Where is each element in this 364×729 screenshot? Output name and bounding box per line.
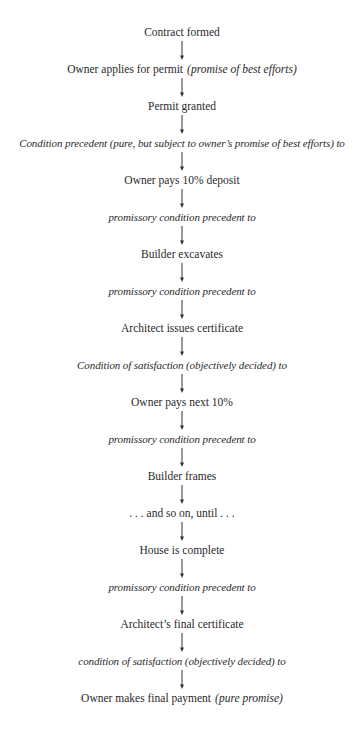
down-arrow-icon [177, 225, 187, 246]
relation-promissory-condition: promissory condition precedent to [108, 283, 255, 299]
node-label: Architect issues certificate [121, 322, 243, 334]
node-label: Architect’s final certificate [120, 618, 243, 630]
down-arrow-icon [177, 336, 187, 357]
relation-promissory-condition: promissory condition precedent to [108, 209, 255, 225]
relation-condition-of-satisfaction: Condition of satisfaction (objectively d… [77, 357, 287, 373]
node-owner-final-payment: Owner makes final payment(pure promise) [81, 690, 283, 706]
relation-label: promissory condition precedent to [108, 211, 255, 223]
relation-promissory-condition: promissory condition precedent to [108, 579, 255, 595]
flow-diagram: Contract formed Owner applies for permit… [0, 24, 364, 706]
node-note: (pure promise) [215, 692, 283, 704]
relation-label: Condition of satisfaction (objectively d… [77, 359, 287, 371]
node-owner-pays-next: Owner pays next 10% [131, 394, 233, 410]
down-arrow-icon [177, 151, 187, 172]
down-arrow-icon [177, 373, 187, 394]
relation-condition-of-satisfaction: condition of satisfaction (objectively d… [78, 653, 285, 669]
node-architect-issues-certificate: Architect issues certificate [121, 320, 243, 336]
relation-condition-precedent: Condition precedent (pure, but subject t… [19, 135, 345, 151]
node-label: Contract formed [144, 26, 220, 38]
down-arrow-icon [177, 77, 187, 98]
node-label: Owner applies for permit [67, 63, 183, 75]
relation-promissory-condition: promissory condition precedent to [108, 431, 255, 447]
relation-label: condition of satisfaction (objectively d… [78, 655, 285, 667]
node-label: Owner makes final payment [81, 692, 211, 704]
down-arrow-icon [177, 447, 187, 468]
node-label: Permit granted [148, 100, 216, 112]
node-house-complete: House is complete [140, 542, 225, 558]
down-arrow-icon [177, 188, 187, 209]
down-arrow-icon [177, 595, 187, 616]
node-label: Builder excavates [141, 248, 223, 260]
down-arrow-icon [177, 669, 187, 690]
node-builder-excavates: Builder excavates [141, 246, 223, 262]
node-builder-frames: Builder frames [148, 468, 217, 484]
down-arrow-icon [177, 299, 187, 320]
relation-label: promissory condition precedent to [108, 581, 255, 593]
relation-label: Condition precedent (pure, but subject t… [19, 137, 345, 149]
down-arrow-icon [177, 40, 187, 61]
node-label: Owner pays next 10% [131, 396, 233, 408]
node-architect-final-certificate: Architect’s final certificate [120, 616, 243, 632]
node-note: (promise of best efforts) [187, 63, 297, 75]
node-and-so-on: . . . and so on, until . . . [129, 505, 234, 521]
relation-label: promissory condition precedent to [108, 433, 255, 445]
down-arrow-icon [177, 484, 187, 505]
down-arrow-icon [177, 521, 187, 542]
node-label: Owner pays 10% deposit [124, 174, 239, 186]
node-label: . . . and so on, until . . . [129, 507, 234, 519]
node-contract-formed: Contract formed [144, 24, 220, 40]
down-arrow-icon [177, 114, 187, 135]
down-arrow-icon [177, 410, 187, 431]
down-arrow-icon [177, 558, 187, 579]
down-arrow-icon [177, 262, 187, 283]
node-permit-granted: Permit granted [148, 98, 216, 114]
node-owner-pays-deposit: Owner pays 10% deposit [124, 172, 239, 188]
relation-label: promissory condition precedent to [108, 285, 255, 297]
down-arrow-icon [177, 632, 187, 653]
node-label: House is complete [140, 544, 225, 556]
node-label: Builder frames [148, 470, 217, 482]
node-owner-applies-permit: Owner applies for permit(promise of best… [67, 61, 297, 77]
